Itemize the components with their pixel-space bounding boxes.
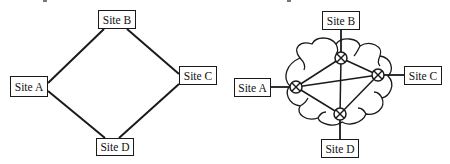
- router-icon: [335, 52, 347, 64]
- link-a-b: [48, 29, 104, 83]
- router-icon: [290, 81, 302, 93]
- link-d-c: [119, 84, 179, 138]
- router-icon: [334, 108, 346, 120]
- left-site-d: Site D: [96, 138, 134, 156]
- right-site-d: Site D: [321, 139, 359, 158]
- cropped-text-fragment: [43, 0, 47, 2]
- link-b-c: [127, 29, 179, 74]
- right-site-c: Site C: [404, 66, 442, 85]
- mesh-b-d: [340, 58, 341, 114]
- right-site-a: Site A: [234, 78, 271, 97]
- left-site-c: Site C: [179, 66, 217, 85]
- left-links: [48, 29, 179, 138]
- left-site-a: Site A: [10, 76, 48, 97]
- router-icon: [372, 69, 384, 81]
- link-a-d: [48, 91, 105, 138]
- right-site-b: Site B: [322, 11, 360, 30]
- cropped-text-fragment: [287, 0, 291, 2]
- left-site-b: Site B: [98, 10, 136, 29]
- network-diagrams-canvas: [0, 0, 450, 164]
